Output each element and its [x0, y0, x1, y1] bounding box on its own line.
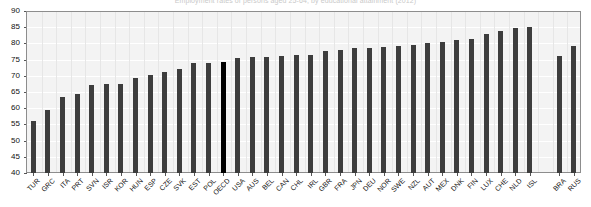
bar-nzl: [411, 45, 416, 173]
y-tick-label: 75: [11, 56, 20, 64]
x-tick-label-tur: TUR: [26, 177, 42, 193]
chart-title: Employment rates of persons aged 25-64, …: [0, 0, 591, 5]
bar-jpn: [352, 48, 357, 173]
x-tick-label-gbr: GBR: [318, 177, 334, 193]
bar-isl: [527, 27, 532, 173]
x-tick-label-grc: GRC: [40, 177, 57, 194]
x-axis: TURGRCITAPRTSVNISRKORHUNESPCZESVKESTPOLO…: [26, 173, 581, 207]
bar-lux: [484, 34, 489, 173]
x-tick-mark: [252, 173, 253, 176]
x-tick-label-nor: NOR: [376, 177, 393, 194]
bar-svk: [177, 69, 182, 173]
x-tick-mark: [63, 173, 64, 176]
x-tick-label-esp: ESP: [143, 177, 159, 193]
y-tick-label: 70: [11, 72, 20, 80]
x-tick-mark: [340, 173, 341, 176]
y-tick-label: 65: [11, 88, 20, 96]
x-tick-label-che: CHE: [493, 177, 509, 193]
x-tick-label-ita: ITA: [58, 177, 71, 190]
x-tick-label-jpn: JPN: [348, 177, 363, 192]
bar-usa: [235, 58, 240, 173]
x-tick-mark: [238, 173, 239, 176]
x-tick-label-deu: DEU: [362, 177, 378, 193]
bar-oecd: [221, 62, 226, 173]
bar-ita: [60, 97, 65, 173]
x-tick-label-mex: MEX: [435, 177, 451, 193]
x-tick-mark: [486, 173, 487, 176]
x-tick-mark: [48, 173, 49, 176]
x-tick-label-prt: PRT: [70, 177, 85, 192]
bar-chart: Employment rates of persons aged 25-64, …: [0, 0, 591, 207]
bar-irl: [308, 55, 313, 173]
x-tick-label-est: EST: [187, 177, 202, 192]
x-tick-mark: [194, 173, 195, 176]
x-tick-mark: [325, 173, 326, 176]
x-tick-label-bel: BEL: [261, 177, 276, 192]
bar-chl: [294, 55, 299, 173]
x-tick-label-chl: CHL: [289, 177, 305, 193]
bar-prt: [75, 94, 80, 173]
x-tick-mark: [398, 173, 399, 176]
x-tick-mark: [384, 173, 385, 176]
x-tick-label-fra: FRA: [333, 177, 349, 193]
x-tick-label-nzl: NZL: [407, 177, 422, 192]
bar-swe: [396, 46, 401, 173]
bar-bel: [264, 57, 269, 173]
y-tick-label: 85: [11, 23, 20, 31]
y-tick-label: 90: [11, 7, 20, 15]
bar-tur: [31, 121, 36, 173]
bar-che: [498, 31, 503, 173]
x-tick-mark: [311, 173, 312, 176]
bar-aus: [250, 57, 255, 173]
y-tick-label: 45: [11, 153, 20, 161]
y-tick-label: 40: [11, 169, 20, 177]
x-tick-mark: [77, 173, 78, 176]
x-tick-mark: [515, 173, 516, 176]
x-tick-mark: [136, 173, 137, 176]
bar-nld: [513, 28, 518, 173]
y-tick-label: 60: [11, 104, 20, 112]
x-tick-label-rus: RUS: [566, 177, 582, 193]
bar-can: [279, 56, 284, 173]
bar-aut: [425, 43, 430, 173]
bar-svn: [89, 85, 94, 173]
y-axis: 9085807570656055504540: [0, 0, 26, 207]
x-tick-label-dnk: DNK: [449, 177, 465, 193]
x-tick-mark: [355, 173, 356, 176]
bars-layer: [26, 11, 581, 173]
x-tick-label-aut: AUT: [421, 177, 437, 193]
x-tick-mark: [223, 173, 224, 176]
x-tick-mark: [165, 173, 166, 176]
x-tick-label-kor: KOR: [113, 177, 129, 193]
bar-nor: [381, 47, 386, 173]
bar-isr: [104, 84, 109, 173]
x-tick-mark: [559, 173, 560, 176]
x-tick-mark: [92, 173, 93, 176]
x-tick-label-lux: LUX: [479, 177, 494, 192]
x-tick-label-nld: NLD: [508, 177, 524, 193]
x-tick-label-usa: USA: [231, 177, 247, 193]
bar-deu: [367, 48, 372, 173]
x-tick-mark: [442, 173, 443, 176]
x-tick-mark: [282, 173, 283, 176]
bar-rus: [571, 46, 576, 173]
x-tick-mark: [106, 173, 107, 176]
bar-kor: [118, 84, 123, 173]
x-tick-label-hun: HUN: [128, 177, 144, 193]
bar-gbr: [323, 51, 328, 173]
bar-dnk: [454, 40, 459, 173]
x-tick-label-bra: BRA: [552, 177, 568, 193]
bar-grc: [45, 110, 50, 173]
x-tick-mark: [209, 173, 210, 176]
x-tick-mark: [457, 173, 458, 176]
x-tick-mark: [574, 173, 575, 176]
x-tick-label-svn: SVN: [85, 177, 101, 193]
x-tick-mark: [179, 173, 180, 176]
x-tick-mark: [530, 173, 531, 176]
x-tick-mark: [428, 173, 429, 176]
bar-esp: [148, 75, 153, 173]
y-tick-label: 50: [11, 137, 20, 145]
x-tick-mark: [267, 173, 268, 176]
x-tick-mark: [413, 173, 414, 176]
x-tick-mark: [501, 173, 502, 176]
